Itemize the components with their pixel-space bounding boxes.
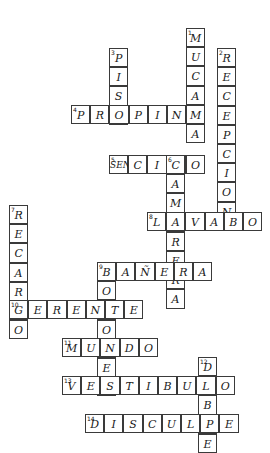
crossword-cell[interactable]: S [123, 414, 142, 433]
crossword-cell[interactable]: P [129, 105, 148, 124]
crossword-cell[interactable]: R7 [9, 205, 28, 224]
crossword-cell[interactable]: I [139, 376, 158, 395]
crossword-cell[interactable]: L8 [147, 212, 166, 231]
crossword-cell[interactable]: A [116, 262, 135, 281]
crossword-cell[interactable]: O [139, 338, 158, 357]
crossword-cell[interactable]: P3 [109, 48, 128, 67]
crossword-cell[interactable]: N [167, 105, 186, 124]
crossword-cell[interactable]: SEN5 [109, 155, 128, 174]
crossword-cell[interactable]: C6 [166, 155, 185, 174]
crossword-cell[interactable]: R [90, 105, 109, 124]
crossword-cell[interactable]: E [217, 106, 236, 125]
crossword-cell[interactable]: M1 [186, 28, 205, 47]
crossword-cell[interactable]: U [186, 47, 205, 66]
crossword-cell[interactable]: D [120, 338, 139, 357]
crossword-cell[interactable]: P [200, 414, 219, 433]
crossword-cell[interactable]: U [177, 376, 196, 395]
crossword-cell[interactable]: E [155, 262, 174, 281]
crossword-cell[interactable]: V [185, 212, 204, 231]
crossword-cell[interactable]: A [186, 86, 205, 105]
cell-letter: B [225, 217, 242, 228]
crossword-cell[interactable]: Ñ [135, 262, 154, 281]
crossword-cell[interactable]: I [109, 67, 128, 86]
crossword-cell[interactable]: V13 [62, 376, 81, 395]
crossword-cell[interactable]: E [28, 300, 47, 319]
cell-letter: C [129, 160, 146, 171]
crossword-cell[interactable]: O [217, 182, 236, 201]
crossword-cell[interactable]: E [9, 224, 28, 243]
crossword-cell[interactable]: R2 [217, 48, 236, 67]
crossword-cell[interactable]: C [143, 414, 162, 433]
clue-number: 8 [149, 213, 153, 220]
crossword-cell[interactable]: I [148, 105, 167, 124]
crossword-cell[interactable]: A [166, 289, 185, 308]
crossword-cell[interactable]: O [9, 320, 28, 339]
clue-number: 10 [11, 301, 19, 308]
crossword-cell[interactable]: R [166, 232, 185, 251]
crossword-cell[interactable]: E [219, 414, 238, 433]
cell-letter: E [10, 229, 27, 240]
crossword-cell[interactable]: E [217, 67, 236, 86]
crossword-cell[interactable]: P4 [71, 105, 90, 124]
crossword-cell[interactable]: L [196, 376, 215, 395]
cell-letter: A [187, 129, 204, 140]
crossword-cell[interactable]: G10 [9, 300, 28, 319]
crossword-cell[interactable]: E [67, 300, 86, 319]
cell-letter: O [244, 217, 261, 228]
crossword-cell[interactable]: P [217, 125, 236, 144]
crossword-cell[interactable]: S [109, 86, 128, 105]
crossword-cell[interactable]: C [217, 86, 236, 105]
crossword-cell[interactable]: A [205, 212, 224, 231]
crossword-cell[interactable]: L [181, 414, 200, 433]
crossword-cell[interactable]: A [166, 212, 185, 231]
crossword-cell[interactable]: E [124, 300, 143, 319]
crossword-cell[interactable]: S [100, 376, 119, 395]
crossword-cell[interactable]: O [216, 376, 235, 395]
crossword-cell[interactable]: C [186, 66, 205, 85]
crossword-cell[interactable]: A [193, 262, 212, 281]
crossword-cell[interactable]: I [147, 155, 166, 174]
crossword-cell[interactable]: M11 [62, 338, 81, 357]
crossword-cell[interactable]: B [158, 376, 177, 395]
crossword-cell[interactable]: I [217, 163, 236, 182]
crossword-cell[interactable]: C [217, 144, 236, 163]
cell-letter: O [110, 110, 127, 121]
crossword-cell[interactable]: D12 [198, 357, 217, 376]
crossword-cell[interactable]: R [47, 300, 66, 319]
crossword-cell[interactable]: T [120, 376, 139, 395]
cell-letter: O [217, 381, 234, 392]
crossword-cell[interactable]: C [128, 155, 147, 174]
cell-letter: E [82, 381, 99, 392]
crossword-cell[interactable]: O [243, 212, 262, 231]
crossword-cell[interactable]: O [97, 320, 116, 339]
crossword-cell[interactable]: A [186, 124, 205, 143]
crossword-cell[interactable]: N [100, 338, 119, 357]
crossword-cell[interactable]: R [174, 262, 193, 281]
crossword-cell[interactable]: B [224, 212, 243, 231]
crossword-cell[interactable]: B9 [97, 262, 116, 281]
cell-letter: T [121, 381, 138, 392]
crossword-cell[interactable]: E [198, 434, 217, 453]
crossword-cell[interactable]: C [9, 243, 28, 262]
crossword-cell[interactable]: E [97, 358, 116, 377]
crossword-cell[interactable]: T [105, 300, 124, 319]
crossword-cell[interactable]: M [186, 105, 205, 124]
cell-letter: S [124, 419, 141, 430]
crossword-cell[interactable]: E [81, 376, 100, 395]
cell-letter: N [168, 110, 185, 121]
crossword-cell[interactable]: R [9, 282, 28, 301]
crossword-cell[interactable]: B [198, 395, 217, 414]
crossword-cell[interactable]: O [109, 105, 128, 124]
crossword-cell[interactable]: O [97, 281, 116, 300]
crossword-cell[interactable]: U [162, 414, 181, 433]
crossword-cell[interactable]: A [166, 174, 185, 193]
clue-number: 9 [99, 263, 103, 270]
crossword-cell[interactable]: A [9, 263, 28, 282]
cell-letter: U [163, 419, 180, 430]
crossword-cell[interactable]: U [81, 338, 100, 357]
crossword-cell[interactable]: I [104, 414, 123, 433]
crossword-cell[interactable]: O [186, 155, 205, 174]
crossword-cell[interactable]: N [86, 300, 105, 319]
crossword-cell[interactable]: D14 [85, 414, 104, 433]
crossword-cell[interactable]: M [166, 193, 185, 212]
